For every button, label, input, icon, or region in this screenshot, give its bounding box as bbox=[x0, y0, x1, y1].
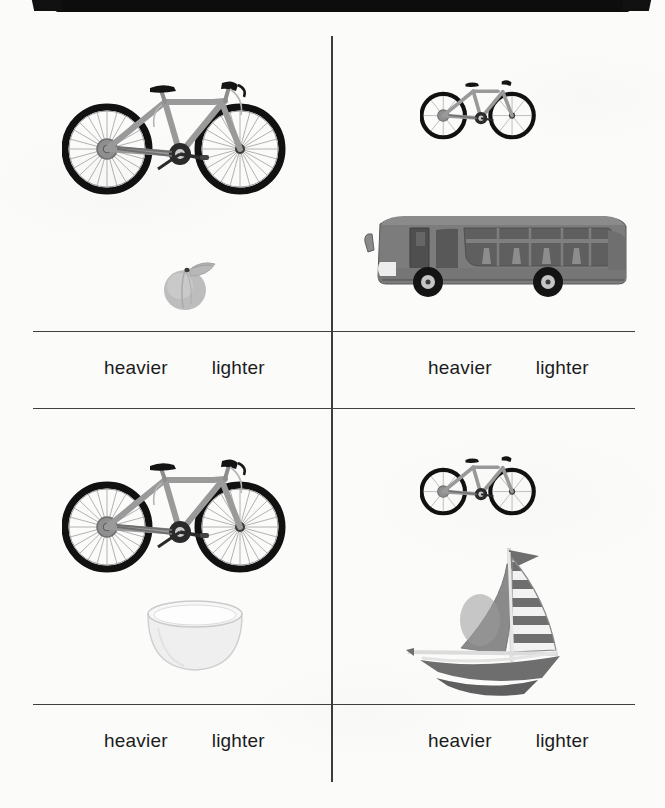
illustration-sailboat bbox=[396, 534, 568, 698]
scan-edge-bar bbox=[55, 0, 630, 12]
illustration-bicycle-small-bottom-right bbox=[420, 444, 540, 518]
illustration-bowl bbox=[144, 598, 247, 676]
illustration-bicycle-large-top-left bbox=[62, 57, 294, 197]
worksheet-page: heavier lighter bbox=[0, 0, 665, 808]
option-heavier[interactable]: heavier bbox=[104, 730, 168, 752]
option-heavier[interactable]: heavier bbox=[428, 730, 492, 752]
option-heavier[interactable]: heavier bbox=[428, 357, 492, 379]
option-lighter[interactable]: lighter bbox=[536, 730, 589, 752]
answer-row-bottom-right: heavier lighter bbox=[428, 728, 589, 754]
answer-row-bottom-left: heavier lighter bbox=[104, 728, 265, 754]
option-lighter[interactable]: lighter bbox=[536, 357, 589, 379]
option-lighter[interactable]: lighter bbox=[212, 357, 265, 379]
illustration-bicycle-small-top-right bbox=[420, 68, 540, 142]
illustration-peach bbox=[159, 256, 221, 312]
option-lighter[interactable]: lighter bbox=[212, 730, 265, 752]
horizontal-rule-top bbox=[33, 331, 635, 332]
option-heavier[interactable]: heavier bbox=[104, 357, 168, 379]
answer-row-top-right: heavier lighter bbox=[428, 355, 589, 381]
answer-row-top-left: heavier lighter bbox=[104, 355, 265, 381]
horizontal-rule-middle bbox=[33, 408, 635, 409]
horizontal-rule-bottom bbox=[33, 704, 635, 705]
illustration-bus bbox=[358, 206, 643, 306]
illustration-bicycle-large-bottom-left bbox=[62, 435, 294, 575]
